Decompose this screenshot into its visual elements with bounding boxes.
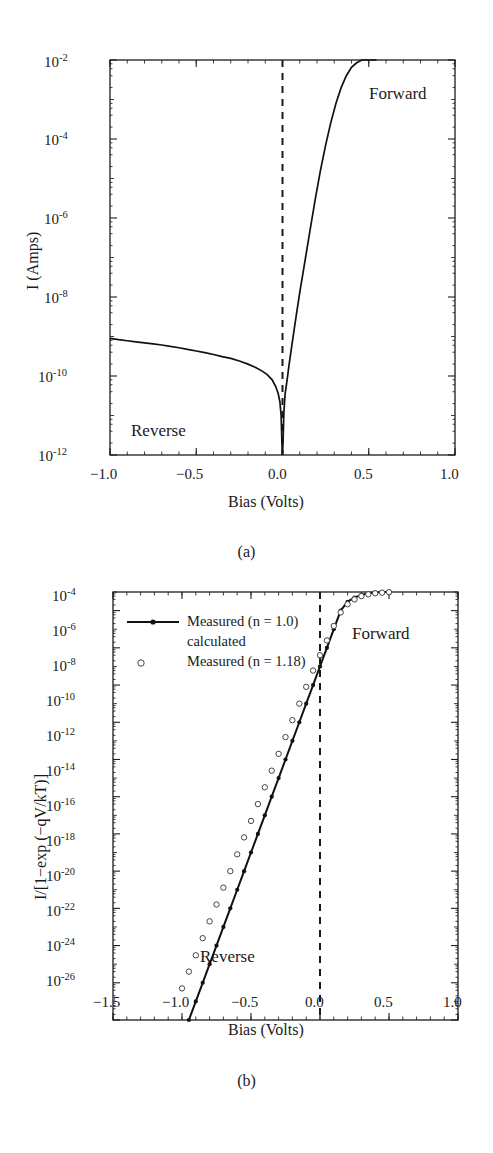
panel-b: 10-4 10-6 10-8 10-10 10-12 10-14 10-16 1…: [0, 560, 493, 1120]
panel-b-plot-area: [0, 560, 493, 1120]
figure-diode-iv-characteristics: 10-2 10-4 10-6 10-8 10-10 10-12 −1.0 −0.…: [0, 0, 493, 1153]
panel-a: 10-2 10-4 10-6 10-8 10-10 10-12 −1.0 −0.…: [0, 0, 493, 570]
panel-a-plot-area: [0, 0, 493, 570]
